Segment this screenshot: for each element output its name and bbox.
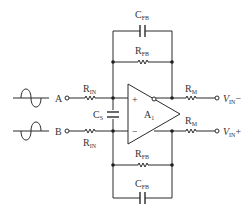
input-terminal-b (65, 129, 69, 133)
op-amp-plus-sign: + (132, 94, 138, 105)
bottom-rfb-label: RFB (135, 148, 149, 160)
input-wire-b (69, 129, 128, 133)
bottom-cfb-capacitor (113, 192, 172, 204)
rm-top-label: RM (185, 83, 198, 95)
top-cfb-capacitor (113, 25, 172, 37)
input-terminal-a (65, 96, 69, 100)
op-amp-minus-sign: − (132, 126, 138, 137)
top-cfb-label: CFB (135, 9, 149, 21)
output-label-vin-minus: VIN− (223, 93, 241, 105)
sine-source-b-icon (13, 122, 49, 140)
cs-capacitor-icon (107, 112, 119, 117)
input-wire-a (69, 96, 128, 100)
rm-bottom-resistor (172, 129, 215, 133)
input-label-b: B (55, 126, 62, 137)
output-label-vin-plus: VIN+ (223, 126, 241, 138)
bottom-cfb-label: CFB (135, 178, 149, 190)
top-rfb-label: RFB (135, 45, 149, 57)
bottom-rfb-resistor (113, 163, 172, 167)
cs-label: CS (93, 109, 103, 121)
output-terminal-vin-plus (215, 129, 219, 133)
inverted-output-bubble (152, 97, 156, 101)
output-terminal-vin-minus (215, 96, 219, 100)
input-label-a: A (55, 93, 63, 104)
rin-a-label: RIN (83, 83, 97, 95)
sine-source-a-icon (13, 89, 49, 107)
rin-b-label: RIN (83, 137, 97, 149)
rm-bottom-label: RM (185, 115, 198, 127)
circuit-diagram: A B RIN RIN CS CFB RFB (0, 0, 252, 216)
top-rfb-resistor (113, 60, 172, 64)
rm-top-resistor (172, 96, 215, 100)
